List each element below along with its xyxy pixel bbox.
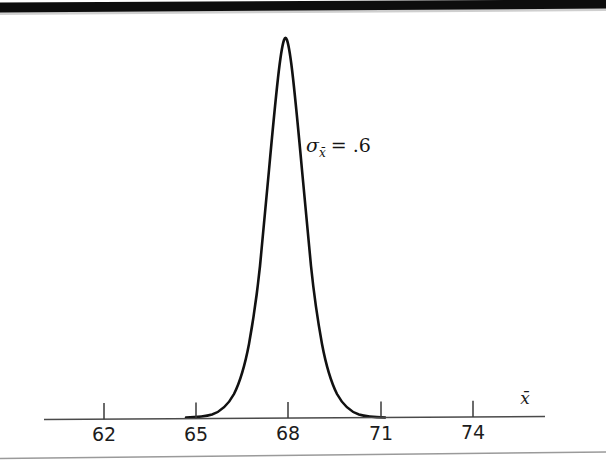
x-axis-tick-label-62: 62: [92, 423, 116, 445]
sigma-value: .6: [353, 134, 371, 156]
sigma-equals-sign: =: [331, 134, 347, 156]
x-axis-tick-label-68: 68: [276, 422, 300, 444]
page-background: [0, 0, 606, 473]
normal-distribution-figure: 62 65 68 71 74 x̄ σx̄=.6: [0, 0, 606, 473]
x-axis-tick-label-65: 65: [184, 423, 208, 445]
x-axis-variable-label: x̄: [520, 388, 530, 408]
sigma-symbol: σ: [306, 134, 320, 156]
x-axis-tick-label-74: 74: [461, 421, 485, 443]
figure-container: 62 65 68 71 74 x̄ σx̄=.6: [0, 0, 606, 473]
x-axis-tick-label-71: 71: [369, 422, 393, 444]
sigma-subscript-xbar: x̄: [319, 146, 326, 160]
